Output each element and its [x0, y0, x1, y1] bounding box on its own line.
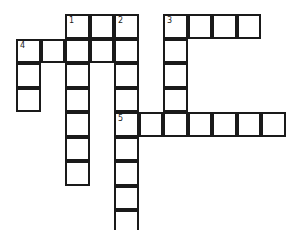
clue-number: 5: [118, 114, 123, 124]
crossword-cell[interactable]: 4: [16, 39, 41, 64]
crossword-cell[interactable]: 5: [114, 112, 139, 137]
crossword-cell[interactable]: [188, 14, 213, 39]
crossword-cell[interactable]: [65, 88, 90, 113]
crossword-cell[interactable]: [90, 39, 115, 64]
crossword-cell[interactable]: 1: [65, 14, 90, 39]
crossword-cell[interactable]: [114, 137, 139, 162]
crossword-cell[interactable]: [65, 112, 90, 137]
crossword-cell[interactable]: [212, 112, 237, 137]
crossword-cell[interactable]: [114, 63, 139, 88]
crossword-cell[interactable]: 2: [114, 14, 139, 39]
clue-number: 2: [118, 16, 123, 26]
crossword-cell[interactable]: 3: [163, 14, 188, 39]
crossword-cell[interactable]: [237, 14, 262, 39]
crossword-cell[interactable]: [188, 112, 213, 137]
crossword-cell[interactable]: [114, 39, 139, 64]
crossword-cell[interactable]: [163, 39, 188, 64]
crossword-cell[interactable]: [139, 112, 164, 137]
crossword-cell[interactable]: [65, 137, 90, 162]
crossword-cell[interactable]: [90, 14, 115, 39]
crossword-cell[interactable]: [212, 14, 237, 39]
crossword-cell[interactable]: [114, 186, 139, 211]
crossword-cell[interactable]: [163, 63, 188, 88]
crossword-cell[interactable]: [163, 112, 188, 137]
crossword-cell[interactable]: [114, 88, 139, 113]
crossword-cell[interactable]: [237, 112, 262, 137]
crossword-cell[interactable]: [114, 210, 139, 230]
crossword-cell[interactable]: [163, 88, 188, 113]
crossword-cell[interactable]: [65, 63, 90, 88]
crossword-cell[interactable]: [65, 161, 90, 186]
clue-number: 4: [20, 41, 25, 51]
crossword-grid: 12345: [0, 0, 305, 230]
crossword-cell[interactable]: [16, 88, 41, 113]
crossword-cell[interactable]: [114, 161, 139, 186]
crossword-cell[interactable]: [261, 112, 286, 137]
clue-number: 1: [69, 16, 74, 26]
crossword-cell[interactable]: [16, 63, 41, 88]
crossword-cell[interactable]: [41, 39, 66, 64]
clue-number: 3: [167, 16, 172, 26]
crossword-cell[interactable]: [65, 39, 90, 64]
